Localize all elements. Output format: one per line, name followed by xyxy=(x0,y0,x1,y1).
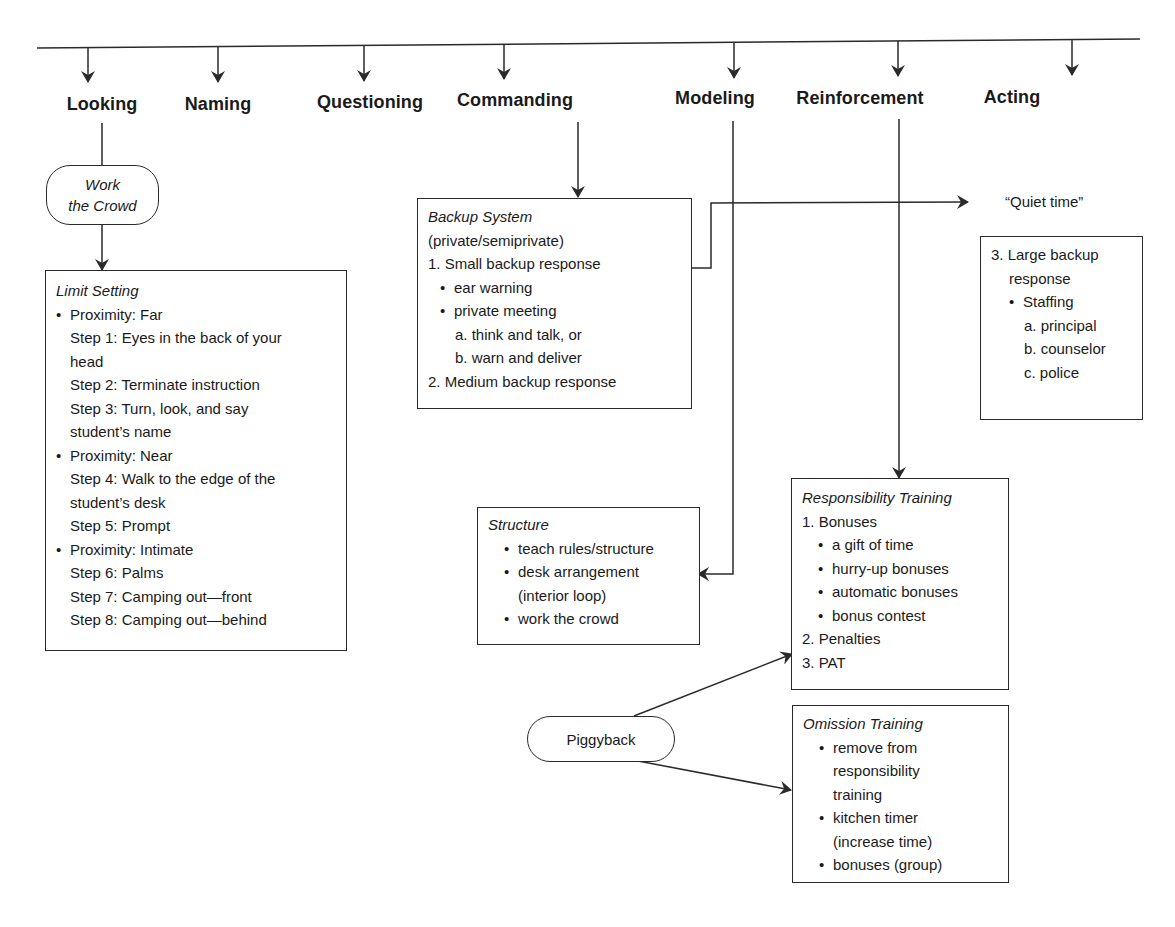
stage-naming: Naming xyxy=(185,94,252,115)
stage-commanding: Commanding xyxy=(457,90,573,111)
list-item-text: teach rules/structure xyxy=(518,540,654,557)
list-item-text: Step 4: Walk to the edge of the xyxy=(70,470,275,487)
list-item-text: remove from xyxy=(833,739,917,756)
list-item-text: head xyxy=(70,353,103,370)
list-item-step: Step 6: Palms xyxy=(56,561,338,585)
bullet-icon: • xyxy=(504,607,518,631)
list-item-text: Step 5: Prompt xyxy=(70,517,170,534)
timeline-axis xyxy=(37,39,1140,48)
list-item-text: 1. Small backup response xyxy=(428,255,601,272)
list-item-plain: 2. Medium backup response xyxy=(428,370,683,394)
list-item-text: ear warning xyxy=(454,279,532,296)
responsibility-training-box: Responsibility Training 1. Bonuses•a gif… xyxy=(791,478,1009,690)
piggyback-to-omission xyxy=(638,761,791,790)
list-item-text: a. think and talk, or xyxy=(455,326,582,343)
list-item-plain: 1. Bonuses xyxy=(802,510,1000,534)
list-item-plain: 3. Large backup xyxy=(991,243,1134,267)
list-item-text: c. police xyxy=(1024,364,1079,381)
list-item-plain: 1. Small backup response xyxy=(428,252,683,276)
work-the-crowd-line2: the Crowd xyxy=(68,195,136,216)
structure-list: •teach rules/structure•desk arrangement(… xyxy=(488,537,691,631)
list-item-text: Proximity: Far xyxy=(70,306,163,323)
responsibility-training-list: 1. Bonuses•a gift of time•hurry-up bonus… xyxy=(802,510,1000,675)
list-item-text: 2. Penalties xyxy=(802,630,880,647)
piggyback-label: Piggyback xyxy=(566,729,635,750)
list-item-sub: a. principal xyxy=(991,314,1134,338)
list-item-step: Step 5: Prompt xyxy=(56,514,338,538)
list-item-text: Step 2: Terminate instruction xyxy=(70,376,260,393)
quiet-time-label: “Quiet time” xyxy=(1005,193,1083,210)
piggyback-node: Piggyback xyxy=(527,716,675,762)
bullet-icon: • xyxy=(56,444,70,468)
list-item-step: Step 4: Walk to the edge of the xyxy=(56,467,338,491)
list-item-bullet: •desk arrangement xyxy=(488,560,691,584)
list-item-text: Proximity: Near xyxy=(70,447,173,464)
stage-acting: Acting xyxy=(984,87,1041,108)
list-item-bullet: •bonuses (group) xyxy=(803,853,1000,877)
list-item-step: student’s desk xyxy=(56,491,338,515)
list-item-step: Step 3: Turn, look, and say xyxy=(56,397,338,421)
list-item-text: 2. Medium backup response xyxy=(428,373,616,390)
list-item-text: student’s name xyxy=(70,423,171,440)
list-item-bullet: •teach rules/structure xyxy=(488,537,691,561)
bullet-icon: • xyxy=(818,557,832,581)
list-item-text: desk arrangement xyxy=(518,563,639,580)
list-item-text: (interior loop) xyxy=(518,587,606,604)
list-item-text: student’s desk xyxy=(70,494,166,511)
list-item-text: 1. Bonuses xyxy=(802,513,877,530)
list-item-text: a. principal xyxy=(1024,317,1097,334)
list-item-step: student’s name xyxy=(56,420,338,444)
list-item-cont: training xyxy=(803,783,1000,807)
omission-training-title: Omission Training xyxy=(803,712,1000,736)
bullet-icon: • xyxy=(504,537,518,561)
stage-questioning: Questioning xyxy=(317,92,423,113)
stage-modeling: Modeling xyxy=(675,88,755,109)
modeling-to-structure xyxy=(698,121,733,574)
omission-training-list: •remove fromresponsibilitytraining•kitch… xyxy=(803,736,1000,877)
large-backup-box: 3. Large backupresponse•Staffinga. princ… xyxy=(980,236,1143,420)
list-item-cont: (interior loop) xyxy=(488,584,691,608)
stage-looking: Looking xyxy=(67,94,138,115)
list-item-bullet: •a gift of time xyxy=(802,533,1000,557)
responsibility-training-title: Responsibility Training xyxy=(802,486,1000,510)
list-item-step: Step 2: Terminate instruction xyxy=(56,373,338,397)
bullet-icon: • xyxy=(56,538,70,562)
list-item-text: Step 8: Camping out—behind xyxy=(70,611,267,628)
list-item-step: Step 7: Camping out—front xyxy=(56,585,338,609)
list-item-text: b. counselor xyxy=(1024,340,1106,357)
list-item-step: head xyxy=(56,350,338,374)
list-item-text: automatic bonuses xyxy=(832,583,958,600)
bullet-icon: • xyxy=(818,580,832,604)
list-item-sub: c. police xyxy=(991,361,1134,385)
list-item-text: (private/semiprivate) xyxy=(428,232,564,249)
list-item-text: Step 6: Palms xyxy=(70,564,163,581)
backup-system-box: Backup System (private/semiprivate)1. Sm… xyxy=(417,198,692,409)
list-item-bullet: •work the crowd xyxy=(488,607,691,631)
bullet-icon: • xyxy=(819,806,833,830)
list-item-cont: (increase time) xyxy=(803,830,1000,854)
backup-system-list: (private/semiprivate)1. Small backup res… xyxy=(428,229,683,394)
limit-setting-list: •Proximity: FarStep 1: Eyes in the back … xyxy=(56,303,338,632)
list-item-plain: (private/semiprivate) xyxy=(428,229,683,253)
list-item-text: private meeting xyxy=(454,302,557,319)
list-item-bullet: •ear warning xyxy=(428,276,683,300)
piggyback-to-responsibility xyxy=(634,654,792,716)
work-the-crowd-line1: Work xyxy=(68,174,136,195)
list-item-text: (increase time) xyxy=(833,833,932,850)
list-item-cont: responsibility xyxy=(803,759,1000,783)
list-item-sub: a. think and talk, or xyxy=(428,323,683,347)
bullet-icon: • xyxy=(1009,290,1023,314)
list-item-cont: response xyxy=(991,267,1134,291)
list-item-text: Step 7: Camping out—front xyxy=(70,588,252,605)
limit-setting-box: Limit Setting •Proximity: FarStep 1: Eye… xyxy=(45,270,347,651)
bullet-icon: • xyxy=(818,533,832,557)
list-item-text: Proximity: Intimate xyxy=(70,541,193,558)
limit-setting-title: Limit Setting xyxy=(56,279,338,303)
list-item-text: b. warn and deliver xyxy=(455,349,582,366)
list-item-text: Step 3: Turn, look, and say xyxy=(70,400,248,417)
list-item-plain: 2. Penalties xyxy=(802,627,1000,651)
stage-reinforcement: Reinforcement xyxy=(796,88,923,109)
list-item-text: bonus contest xyxy=(832,607,925,624)
list-item-step: Step 8: Camping out—behind xyxy=(56,608,338,632)
list-item-text: training xyxy=(833,786,882,803)
